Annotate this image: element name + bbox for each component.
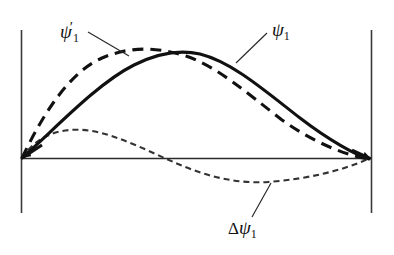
- delta-psi-1-subscript: 1: [251, 227, 257, 241]
- figure-root: ψ′1 ψ1 Δψ1: [0, 0, 394, 255]
- leader-line-psi1: [236, 33, 267, 63]
- curve-psi1: [22, 52, 369, 159]
- label-psi-1-prime: ψ′1: [60, 20, 79, 44]
- delta-psi-1-symbol: ψ: [239, 217, 251, 238]
- delta-symbol: Δ: [228, 219, 239, 238]
- leader-line-psi1-prime: [88, 32, 129, 56]
- label-psi-1: ψ1: [272, 20, 290, 42]
- psi-1-prime-subscript: 1: [73, 31, 79, 45]
- psi-1-subscript: 1: [284, 29, 290, 43]
- psi-1-symbol: ψ: [272, 19, 284, 40]
- curve-psi1-prime: [22, 49, 369, 159]
- label-delta-psi-1: Δψ1: [228, 218, 257, 240]
- curve-delta-psi1: [22, 130, 370, 183]
- leader-line-delta-psi1: [252, 183, 271, 217]
